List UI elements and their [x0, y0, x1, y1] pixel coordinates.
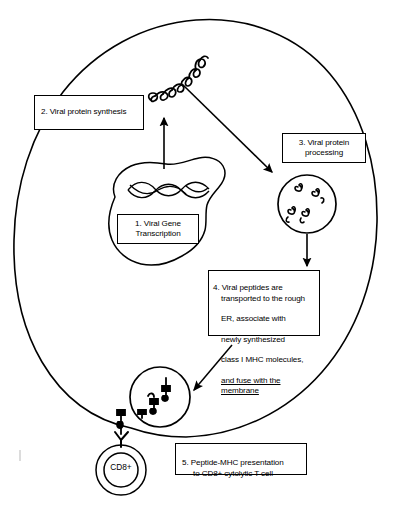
er-vesicle-fusing-membrane — [130, 367, 190, 427]
step-1-label-box: 1. Viral GeneTranscription — [117, 214, 199, 244]
step-4-line-3: ER, associate with — [213, 314, 317, 324]
nucleus-outline — [109, 157, 225, 265]
step-3-text: 3. Viral proteinprocessing — [299, 138, 349, 159]
step-3-line-2: processing — [305, 148, 343, 157]
step-4-line-1: 4. Viral peptides are — [213, 283, 283, 292]
step-1-line-1: 1. Viral Gene — [135, 219, 181, 228]
step-1-text: 1. Viral GeneTranscription — [135, 219, 181, 240]
step-4-label-box: 4. Viral peptides are transported to the… — [208, 270, 320, 336]
cd8-cell-label: CD8+ — [100, 462, 142, 472]
step-5-line-2: to CD8+ cytolytic T cell — [182, 469, 302, 479]
step-3-line-1: 3. Viral protein — [299, 138, 349, 147]
diagram-vector-layer — [0, 0, 405, 514]
step-4-line-2: transported to the rough — [213, 294, 317, 304]
step-5-line-1: 5. Peptide-MHC presentation — [182, 458, 284, 467]
step-3-label-box: 3. Viral proteinprocessing — [282, 133, 366, 163]
surface-mhc-peptide-complex — [117, 410, 125, 434]
step-4-line-6: and fuse with the membrane — [213, 376, 317, 397]
step-4-line-5: class I MHC molecules, — [213, 355, 317, 365]
step-5-label-box: 5. Peptide-MHC presentation to CD8+ cyto… — [175, 443, 307, 475]
step-2-label-box: 2. Viral protein synthesis — [34, 95, 144, 130]
nascent-viral-protein-coil — [149, 56, 208, 101]
step-1-line-2: Transcription — [135, 229, 180, 238]
step-2-text: 2. Viral protein synthesis — [41, 107, 126, 117]
dna-double-helix — [128, 182, 209, 198]
proteasome-vesicle — [278, 175, 336, 233]
diagram-canvas: 2. Viral protein synthesis 3. Viral prot… — [0, 0, 405, 514]
step-4-line-4: newly synthesized — [213, 335, 317, 345]
